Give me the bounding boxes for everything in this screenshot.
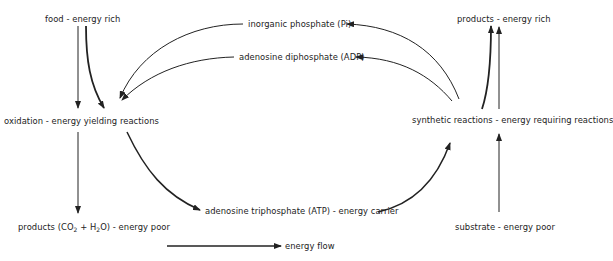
arrow-atp-to-synthetic <box>378 143 450 212</box>
node-oxidation: oxidation - energy yielding reactions <box>4 116 159 126</box>
products-poor-prefix: products (CO <box>18 222 74 232</box>
products-poor-suffix: O) - energy poor <box>100 222 170 232</box>
node-inorganic-phosphate: inorganic phosphate (Pi) <box>248 19 351 29</box>
arrow-pi-to-oxidation <box>120 24 243 98</box>
node-products-energy-rich: products - energy rich <box>457 14 551 24</box>
node-synthetic: synthetic reactions - energy requiring r… <box>412 115 613 125</box>
products-poor-mid: + H <box>77 222 96 232</box>
node-substrate: substrate - energy poor <box>455 222 555 232</box>
node-food: food - energy rich <box>45 14 120 24</box>
arrow-adp-to-oxidation <box>122 57 234 100</box>
node-adp: adenosine diphosphate (ADP) <box>239 52 365 62</box>
legend-energy-flow-label: energy flow <box>285 241 335 251</box>
node-products-energy-poor: products (CO2 + H2O) - energy poor <box>18 222 170 232</box>
arrow-oxidation-to-atp <box>127 132 200 210</box>
node-atp: adenosine triphosphate (ATP) - energy ca… <box>205 206 398 216</box>
arrow-food-to-oxidation-thick <box>86 26 104 108</box>
arrow-synthetic-to-products-rich-thick <box>482 26 491 109</box>
